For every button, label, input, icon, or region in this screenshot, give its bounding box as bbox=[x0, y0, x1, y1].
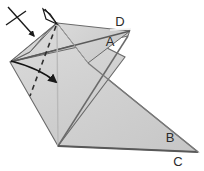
crease-center-vertical bbox=[57, 23, 58, 146]
vertex-label-b: B bbox=[166, 130, 175, 145]
vertex-label-a: A bbox=[106, 34, 115, 49]
vertex-label-d: D bbox=[115, 14, 124, 29]
origami-diagram: D A B C bbox=[0, 0, 204, 171]
push-arrow-icon bbox=[43, 9, 57, 24]
highlight-d-edge bbox=[110, 29, 131, 30]
cancelled-arrow-icon bbox=[6, 7, 34, 36]
origami-illustration: D A B C bbox=[0, 0, 204, 171]
vertex-label-c: C bbox=[173, 154, 182, 169]
